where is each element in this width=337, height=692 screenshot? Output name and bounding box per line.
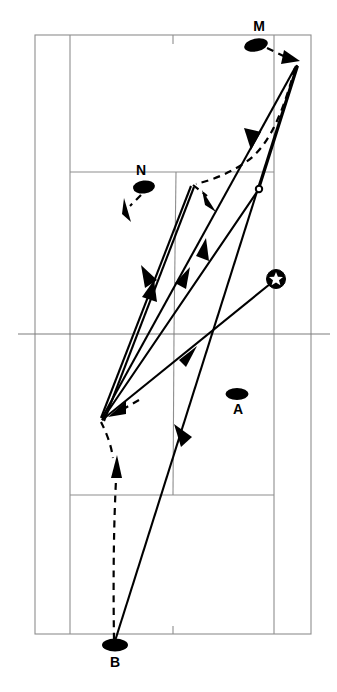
tennis-court-diagram: M N A B xyxy=(0,0,337,692)
court-canvas: M N A B xyxy=(0,0,337,692)
arrow-head-b-advance xyxy=(111,455,122,478)
player-marker-n xyxy=(132,179,155,194)
player-label-a: A xyxy=(233,401,243,417)
player-movement-paths xyxy=(101,48,300,640)
move-path-upperapex-hook xyxy=(193,185,207,196)
arrow-head-apex-to-leftapex xyxy=(196,238,209,261)
shot-path-apex-to-leftapex xyxy=(102,66,296,418)
player-marker-m xyxy=(243,36,269,54)
ball-trajectories xyxy=(101,65,298,641)
shot-path-bounce-to-apex xyxy=(102,66,298,420)
arrow-head-n-forward xyxy=(122,198,131,222)
arrow-head-apex-recovery xyxy=(244,128,261,150)
move-path-apex-recovery xyxy=(196,68,295,184)
move-path-leftapex-hook xyxy=(101,422,113,458)
player-label-m: M xyxy=(253,18,265,34)
player-marker-b xyxy=(102,639,128,652)
move-path-b-advance xyxy=(114,480,116,640)
player-marker-a xyxy=(226,388,249,400)
bounce-point-icon xyxy=(256,186,262,192)
shot-path-b-to-apex xyxy=(115,65,297,641)
player-label-n: N xyxy=(136,162,146,178)
player-label-b: B xyxy=(110,654,120,670)
player-markers: M N A B xyxy=(102,18,269,670)
move-path-n-forward xyxy=(130,195,141,206)
arrow-head-m-to-contact xyxy=(281,50,300,64)
court-lines xyxy=(18,35,330,634)
center-service-line-near xyxy=(173,334,174,495)
markers xyxy=(256,186,286,289)
